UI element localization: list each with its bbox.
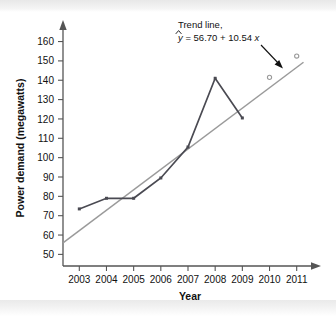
x-axis-ticks-group: 200320042005200620072008200920102011 [68, 266, 308, 285]
x-tick-label: 2004 [95, 274, 118, 285]
data-point-marker [159, 176, 162, 179]
y-tick-label: 60 [43, 230, 55, 241]
x-tick-label: 2003 [68, 274, 91, 285]
axes-group [59, 20, 321, 270]
y-tick-label: 100 [37, 152, 54, 163]
data-series-path [79, 78, 242, 209]
trend-line-series [63, 54, 303, 243]
annotation-equation-body: = 56.70 + 10.54 [185, 32, 252, 43]
y-tick-label: 120 [37, 114, 54, 125]
y-axis-ticks-group: 5060708090100110120130140150160 [37, 36, 63, 260]
trend-line-marker [267, 75, 271, 79]
annotation-yhat-symbol: y [177, 32, 184, 43]
data-point-marker [241, 116, 244, 119]
trend-line-marker [295, 54, 299, 58]
trend-line-annotation: Trend line, y = 56.70 + 10.54 x [176, 19, 283, 69]
x-tick-label: 2006 [150, 274, 173, 285]
y-tick-label: 150 [37, 55, 54, 66]
y-axis-arrowhead [59, 20, 66, 30]
data-point-marker [105, 197, 108, 200]
power-demand-series [78, 77, 244, 211]
data-point-marker [78, 207, 81, 210]
x-axis-arrowhead [311, 262, 321, 269]
data-point-marker [187, 146, 190, 149]
annotation-line-2: y = 56.70 + 10.54 x [177, 32, 261, 43]
x-tick-label: 2008 [204, 274, 227, 285]
x-tick-label: 2011 [286, 274, 308, 285]
power-demand-trend-chart: 5060708090100110120130140150160 20032004… [0, 0, 336, 316]
y-tick-label: 140 [37, 75, 54, 86]
annotation-line-1: Trend line, [178, 19, 223, 30]
x-tick-label: 2010 [258, 274, 281, 285]
data-point-marker [214, 77, 217, 80]
x-axis-title: Year [179, 290, 201, 302]
y-tick-label: 110 [38, 133, 54, 144]
y-tick-label: 50 [43, 249, 55, 260]
y-tick-label: 130 [37, 94, 54, 105]
y-tick-label: 80 [43, 191, 55, 202]
y-axis-title: Power demand (megawatts) [14, 79, 26, 218]
data-point-marker [132, 197, 135, 200]
x-tick-label: 2005 [123, 274, 146, 285]
y-tick-label: 70 [43, 210, 55, 221]
figure-container: 5060708090100110120130140150160 20032004… [0, 0, 336, 316]
x-tick-label: 2007 [177, 274, 200, 285]
x-tick-label: 2009 [231, 274, 254, 285]
y-tick-label: 90 [43, 172, 55, 183]
annotation-variable-x: x [254, 32, 261, 43]
y-tick-label: 160 [37, 36, 54, 47]
